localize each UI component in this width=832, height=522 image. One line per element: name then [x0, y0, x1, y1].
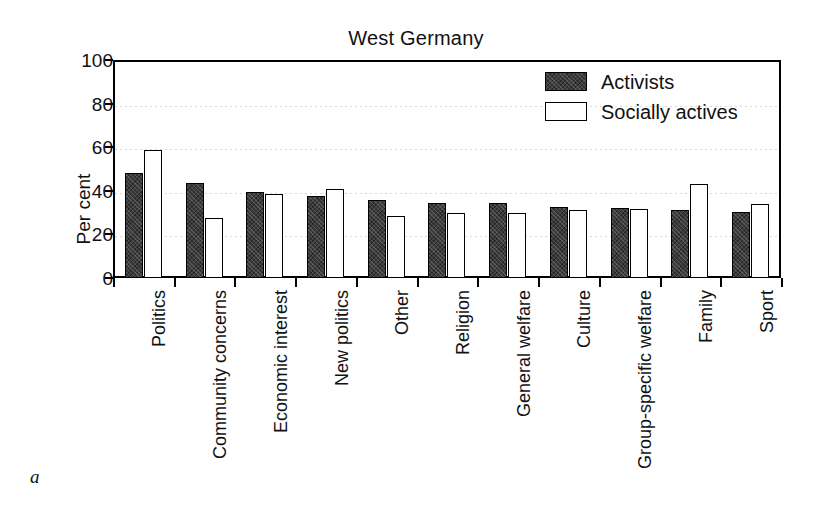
x-tick-mark — [599, 278, 601, 287]
x-axis-labels: PoliticsCommunity concernsEconomic inter… — [113, 290, 781, 480]
bar-socially-actives — [205, 218, 223, 278]
legend-label-activists: Activists — [601, 72, 674, 92]
bar-activists — [550, 207, 568, 278]
x-tick-label: Sport — [758, 290, 776, 333]
x-tick-mark — [234, 278, 236, 287]
x-axis-ticks — [113, 278, 781, 288]
x-tick-label: New politics — [333, 290, 351, 386]
x-tick-mark — [538, 278, 540, 287]
x-tick-mark — [295, 278, 297, 287]
x-tick-label: Culture — [575, 290, 593, 348]
bar-socially-actives — [690, 184, 708, 278]
bar-socially-actives — [144, 150, 162, 278]
x-tick-label: Religion — [454, 290, 472, 355]
bar-socially-actives — [508, 213, 526, 278]
y-tick-mark — [105, 146, 113, 148]
y-tick-mark — [105, 233, 113, 235]
bar-activists — [732, 212, 750, 278]
bar-socially-actives — [569, 210, 587, 278]
bar-activists — [125, 173, 143, 278]
bar-socially-actives — [751, 204, 769, 278]
y-tick-mark — [105, 190, 113, 192]
x-tick-label: Group-specific welfare — [636, 290, 654, 469]
y-tick-mark — [105, 103, 113, 105]
x-tick-mark — [477, 278, 479, 287]
chart-legend: Activists Socially actives — [545, 68, 738, 128]
bar-group — [234, 60, 295, 278]
y-axis-label: Per cent — [73, 149, 95, 269]
bar-activists — [368, 200, 386, 278]
bar-socially-actives — [447, 213, 465, 278]
x-tick-mark — [356, 278, 358, 287]
figure-panel: West Germany Per cent 020406080100 Polit… — [0, 0, 832, 522]
x-tick-label: Other — [393, 290, 411, 335]
bar-socially-actives — [630, 209, 648, 278]
chart-title: West Germany — [0, 27, 832, 50]
bar-socially-actives — [265, 194, 283, 278]
bar-activists — [307, 196, 325, 278]
x-tick-mark — [720, 278, 722, 287]
legend-label-socially-actives: Socially actives — [601, 102, 738, 122]
bar-activists — [489, 203, 507, 278]
legend-swatch-socially-actives-icon — [545, 102, 587, 121]
x-tick-mark — [113, 278, 115, 287]
bar-activists — [428, 203, 446, 278]
bar-group — [356, 60, 417, 278]
x-tick-label: Economic interest — [272, 290, 290, 433]
bar-group — [174, 60, 235, 278]
x-tick-mark — [781, 278, 783, 287]
bar-group — [113, 60, 174, 278]
bar-activists — [611, 208, 629, 278]
y-axis: Per cent 020406080100 — [56, 60, 113, 278]
legend-item-socially-actives: Socially actives — [545, 98, 738, 125]
legend-swatch-activists-icon — [545, 72, 587, 91]
bar-activists — [186, 183, 204, 278]
bar-group — [477, 60, 538, 278]
x-tick-mark — [660, 278, 662, 287]
x-tick-label: Politics — [150, 290, 168, 347]
y-tick-mark — [105, 277, 113, 279]
legend-item-activists: Activists — [545, 68, 738, 95]
bar-group — [295, 60, 356, 278]
bar-activists — [246, 192, 264, 278]
figure-caption-letter: a — [30, 466, 40, 488]
y-tick-mark — [105, 59, 113, 61]
bar-socially-actives — [387, 216, 405, 278]
x-tick-label: General welfare — [515, 290, 533, 417]
x-tick-mark — [174, 278, 176, 287]
x-tick-label: Family — [697, 290, 715, 343]
bar-group — [417, 60, 478, 278]
x-tick-mark — [417, 278, 419, 287]
x-tick-label: Community concerns — [211, 290, 229, 459]
bar-activists — [671, 210, 689, 278]
bar-socially-actives — [326, 189, 344, 278]
